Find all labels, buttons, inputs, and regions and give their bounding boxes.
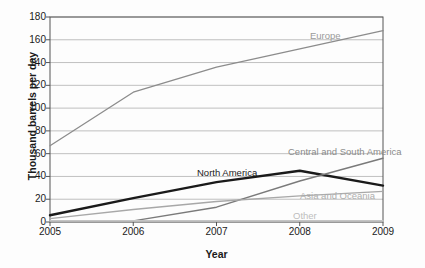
- series-label: Europe: [310, 30, 341, 41]
- x-tick-label: 2008: [270, 226, 330, 237]
- x-tick-label: 2005: [20, 226, 80, 237]
- x-tick-label: 2009: [353, 226, 413, 237]
- x-tick-label: 2007: [187, 226, 247, 237]
- series-label: Other: [293, 210, 317, 221]
- series-label: North America: [197, 167, 257, 178]
- series-label: Central and South America: [288, 146, 402, 157]
- series-line: [50, 31, 383, 146]
- series-label: Asia and Oceania: [300, 190, 375, 201]
- chart-figure: Thousand barrels per day 020406080100120…: [0, 0, 425, 268]
- x-tick-label: 2006: [103, 226, 163, 237]
- x-axis-title: Year: [50, 248, 383, 260]
